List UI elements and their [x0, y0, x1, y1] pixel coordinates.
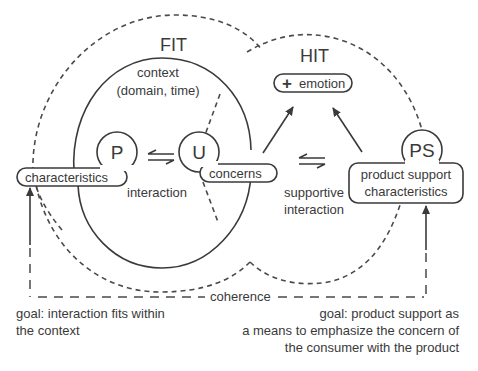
right-goal-line3: the consumer with the product	[285, 340, 460, 355]
user-concerns-label: concerns	[209, 166, 262, 181]
hit-label: HIT	[300, 46, 329, 66]
product-support-label-line1: product support	[361, 167, 452, 182]
left-goal-line2: the context	[16, 323, 80, 338]
fit-hit-diagram: FIT HIT context (domain, time) P charact…	[0, 0, 478, 371]
supportive-exchange-icon	[299, 154, 325, 168]
emotion-node: + emotion	[274, 74, 352, 93]
product-characteristics-label: characteristics	[25, 170, 109, 185]
arrow-concerns-to-emotion	[263, 107, 293, 153]
product-node-letter: P	[111, 142, 124, 163]
arrow-ps-to-emotion	[333, 108, 362, 152]
right-goal-line2: a means to emphasize the concern of	[242, 323, 459, 338]
right-goal-line1: goal: product support as	[320, 306, 460, 321]
coherence-label: coherence	[210, 289, 271, 304]
plus-icon: +	[282, 74, 292, 93]
fit-label: FIT	[160, 35, 187, 55]
fit-boundary-lower	[36, 185, 250, 292]
product-support-node-letter: PS	[409, 140, 434, 161]
emotion-label: emotion	[299, 76, 345, 91]
context-divider-upper	[205, 94, 220, 135]
context-sublabel: (domain, time)	[116, 83, 199, 98]
supportive-label-line2: interaction	[284, 202, 344, 217]
user-node-letter: U	[192, 142, 206, 163]
interaction-label: interaction	[127, 185, 187, 200]
context-label: context	[137, 65, 179, 80]
left-goal-line1: goal: interaction fits within	[16, 306, 165, 321]
context-divider-lower	[203, 182, 218, 222]
product-support-node: PS product support characteristics	[349, 130, 463, 203]
supportive-label-line1: supportive	[284, 185, 344, 200]
interaction-exchange-icon	[148, 150, 174, 164]
product-support-label-line2: characteristics	[364, 184, 448, 199]
user-node: U concerns	[179, 132, 277, 182]
